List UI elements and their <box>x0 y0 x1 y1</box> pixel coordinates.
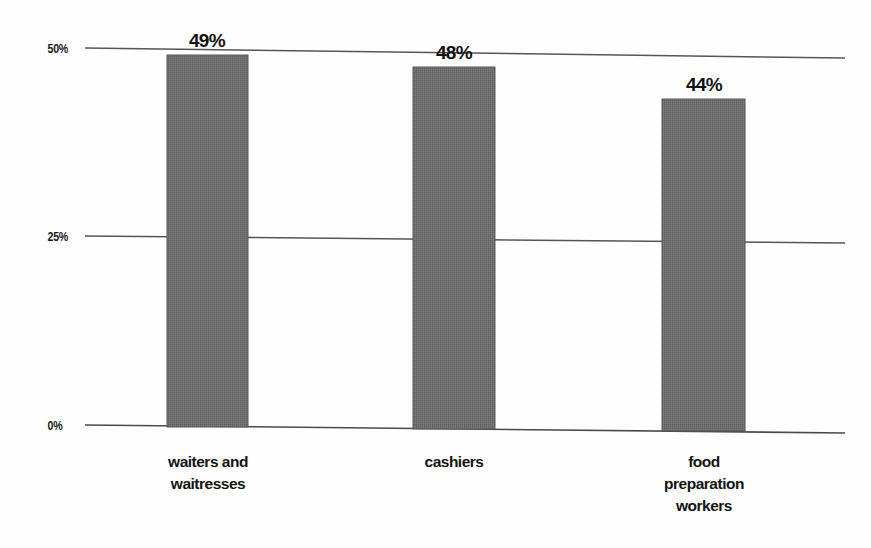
bar-category-label-cashiers-line1: cashiers <box>425 453 484 470</box>
bar-category-label-food-line1: food <box>688 453 720 470</box>
y-tick-label-50: 50% <box>48 41 69 56</box>
bar-group-cashiers[interactable]: 48% cashiers <box>413 42 495 470</box>
bar-value-label-food-preparation-workers: 44% <box>686 74 723 95</box>
bar-group-waiters-and-waitresses[interactable]: 49% waiters and waitresses <box>167 30 248 492</box>
bar-cashiers[interactable] <box>413 67 495 429</box>
bar-category-label-food-line2: preparation <box>664 475 744 492</box>
bar-waiters-and-waitresses[interactable] <box>167 55 248 427</box>
bar-category-label-waiters-line1: waiters and <box>167 453 248 470</box>
y-tick-label-25: 25% <box>48 229 69 244</box>
bar-group-food-preparation-workers[interactable]: 44% food preparation workers <box>662 74 745 514</box>
chart-canvas: 50% 25% 0% 49% waiters and waitresses 48… <box>0 0 871 548</box>
bar-value-label-waiters-and-waitresses: 49% <box>189 30 226 51</box>
bar-food-preparation-workers[interactable] <box>662 99 745 431</box>
y-tick-label-0: 0% <box>48 418 63 433</box>
bar-chart: 50% 25% 0% 49% waiters and waitresses 48… <box>0 0 871 548</box>
bar-value-label-cashiers: 48% <box>436 42 473 63</box>
bar-category-label-food-line3: workers <box>675 497 732 514</box>
bar-category-label-waiters-line2: waitresses <box>170 475 245 492</box>
y-axis-tick-labels: 50% 25% 0% <box>48 41 69 433</box>
